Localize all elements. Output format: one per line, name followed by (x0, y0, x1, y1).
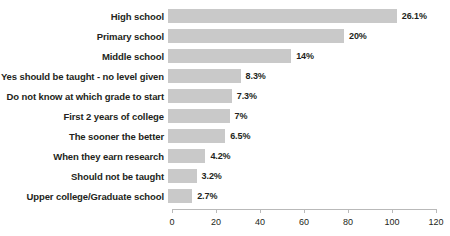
x-axis-tick-label: 80 (343, 217, 353, 227)
x-axis-tick (216, 209, 217, 213)
bar-data-label: 6.5% (230, 131, 250, 141)
bar (168, 149, 205, 163)
category-label: Yes should be taught - no level given (0, 71, 168, 82)
bar-data-label: 8.3% (246, 71, 266, 81)
bar-row: Do not know at which grade to start7.3% (0, 86, 450, 106)
bar-row: Upper college/Graduate school2.7% (0, 186, 450, 206)
x-axis-tick (172, 209, 173, 213)
bar-track: 26.1% (168, 6, 450, 26)
bar-data-label: 7.3% (237, 91, 257, 101)
bar (168, 129, 225, 143)
bar-track: 3.2% (168, 166, 450, 186)
category-label: When they earn research (0, 151, 168, 162)
x-axis-tick (348, 209, 349, 213)
category-label: Upper college/Graduate school (0, 191, 168, 202)
bar-track: 6.5% (168, 126, 450, 146)
x-axis-tick (260, 209, 261, 213)
bar-row: Middle school14% (0, 46, 450, 66)
category-label: Should not be taught (0, 171, 168, 182)
bar (168, 189, 192, 203)
bar (168, 109, 230, 123)
bar-track: 14% (168, 46, 450, 66)
bar (168, 9, 397, 23)
bar-row: When they earn research4.2% (0, 146, 450, 166)
bar (168, 29, 344, 43)
bar-data-label: 4.2% (210, 151, 230, 161)
bar-row: The sooner the better6.5% (0, 126, 450, 146)
bar-track: 7.3% (168, 86, 450, 106)
x-axis-tick (304, 209, 305, 213)
bar-track: 20% (168, 26, 450, 46)
category-label: High school (0, 11, 168, 22)
x-axis: 020406080100120 (172, 209, 436, 210)
bar (168, 49, 291, 63)
horizontal-bar-chart: High school26.1%Primary school20%Middle … (0, 0, 450, 236)
bar-row: High school26.1% (0, 6, 450, 26)
bar-data-label: 7% (235, 111, 248, 121)
bar (168, 89, 232, 103)
x-axis-tick-label: 0 (169, 217, 174, 227)
x-axis-tick (392, 209, 393, 213)
bar-row: Primary school20% (0, 26, 450, 46)
bar-row: First 2 years of college7% (0, 106, 450, 126)
bar (168, 69, 241, 83)
bar-data-label: 20% (349, 31, 367, 41)
category-label: Primary school (0, 31, 168, 42)
bar-rows: High school26.1%Primary school20%Middle … (0, 6, 450, 206)
category-label: First 2 years of college (0, 111, 168, 122)
x-axis-tick-label: 100 (384, 217, 399, 227)
bar-track: 4.2% (168, 146, 450, 166)
bar-track: 8.3% (168, 66, 450, 86)
category-label: Do not know at which grade to start (0, 91, 168, 102)
x-axis-tick-label: 60 (299, 217, 309, 227)
x-axis-tick-label: 40 (255, 217, 265, 227)
category-label: The sooner the better (0, 131, 168, 142)
bar-data-label: 26.1% (402, 11, 427, 21)
bar-row: Yes should be taught - no level given8.3… (0, 66, 450, 86)
bar-track: 2.7% (168, 186, 450, 206)
bar (168, 169, 197, 183)
x-axis-tick-label: 120 (428, 217, 443, 227)
bar-data-label: 2.7% (197, 191, 217, 201)
x-axis-tick-label: 20 (211, 217, 221, 227)
bar-row: Should not be taught3.2% (0, 166, 450, 186)
category-label: Middle school (0, 51, 168, 62)
bar-track: 7% (168, 106, 450, 126)
bar-data-label: 3.2% (202, 171, 222, 181)
x-axis-tick (436, 209, 437, 213)
bar-data-label: 14% (296, 51, 314, 61)
